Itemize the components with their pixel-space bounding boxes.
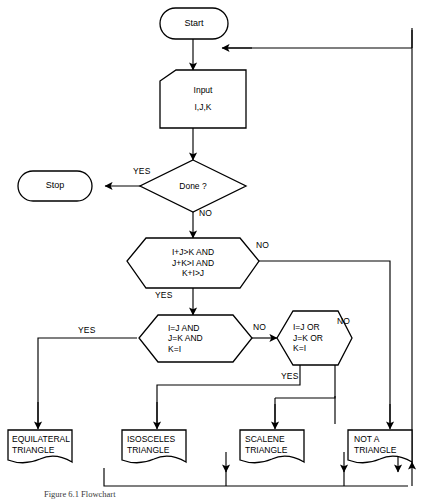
equilateral-out-line2: TRIANGLE bbox=[12, 445, 55, 456]
equilateral-test-line2: J=K AND bbox=[168, 333, 203, 344]
input-label-line2: I,J,K bbox=[194, 102, 211, 113]
edge-label-done-yes: YES bbox=[133, 166, 151, 176]
inequality-line2: J+K>I AND bbox=[172, 258, 214, 269]
edge-bottom-bus bbox=[104, 468, 408, 486]
edge-eq-yes-route bbox=[38, 338, 137, 424]
isosceles-test-line3: K=I bbox=[293, 343, 306, 354]
edge-label-inequality-yes: YES bbox=[155, 290, 173, 300]
start-label: Start bbox=[184, 18, 203, 29]
edge-label-done-no: NO bbox=[199, 208, 212, 218]
isosceles-out-line2: TRIANGLE bbox=[127, 445, 170, 456]
done-decision-node[interactable]: Done ? bbox=[140, 160, 246, 212]
edge-label-equilateral-yes: YES bbox=[78, 325, 96, 335]
stop-label: Stop bbox=[46, 180, 65, 191]
edge-label-inequality-no: NO bbox=[256, 240, 269, 250]
start-node[interactable]: Start bbox=[160, 8, 228, 39]
figure-caption: Figure 6.1 Flowchart bbox=[44, 489, 116, 499]
input-node[interactable]: Input I,J,K bbox=[160, 70, 246, 128]
edge-return-top-bus bbox=[228, 28, 412, 48]
edge-iso-yes-route bbox=[157, 365, 300, 424]
isosceles-out-line1: ISOSCELES bbox=[127, 434, 175, 445]
equilateral-test-line1: I=J AND bbox=[168, 323, 199, 334]
isosceles-output-node[interactable]: ISOSCELES TRIANGLE bbox=[127, 432, 187, 458]
isosceles-test-line1: I=J OR bbox=[293, 322, 320, 333]
equilateral-output-node[interactable]: EQUILATERAL TRIANGLE bbox=[12, 432, 74, 458]
not-triangle-output-node[interactable]: NOT A TRIANGLE bbox=[354, 432, 414, 458]
edge-label-isosceles-no: NO bbox=[337, 316, 350, 326]
done-label: Done ? bbox=[179, 181, 206, 192]
not-triangle-out-line1: NOT A bbox=[354, 434, 379, 445]
scalene-out-line1: SCALENE bbox=[245, 434, 285, 445]
edge-label-isosceles-yes: YES bbox=[281, 371, 299, 381]
scalene-output-node[interactable]: SCALENE TRIANGLE bbox=[245, 432, 305, 458]
stop-node[interactable]: Stop bbox=[18, 171, 92, 201]
isosceles-test-line2: J=K OR bbox=[293, 333, 323, 344]
input-label-line1: Input bbox=[194, 85, 213, 96]
equilateral-out-line1: EQUILATERAL bbox=[12, 434, 70, 445]
equilateral-test-line3: K=I bbox=[168, 344, 181, 355]
scalene-out-line2: TRIANGLE bbox=[245, 445, 288, 456]
inequality-line3: K+I>J bbox=[182, 268, 204, 279]
not-triangle-out-line2: TRIANGLE bbox=[354, 445, 397, 456]
inequality-decision-node[interactable]: I+J>K AND J+K>I AND K+I>J bbox=[127, 238, 259, 288]
edge-scalene-route bbox=[275, 396, 335, 398]
equilateral-decision-node[interactable]: I=J AND J=K AND K=I bbox=[150, 315, 263, 362]
inequality-line1: I+J>K AND bbox=[172, 247, 214, 258]
edge-label-equilateral-no: NO bbox=[253, 322, 266, 332]
